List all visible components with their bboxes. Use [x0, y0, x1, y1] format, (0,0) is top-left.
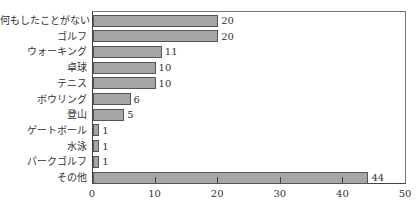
bar	[93, 46, 162, 58]
value-label: 5	[127, 108, 133, 121]
value-label: 6	[134, 93, 140, 106]
x-tick-label: 30	[265, 188, 295, 199]
value-label: 1	[102, 140, 108, 153]
bar	[93, 30, 218, 42]
category-label: ゲートボール	[0, 124, 87, 137]
category-label: パークゴルフ	[0, 155, 87, 168]
value-label: 11	[165, 45, 178, 58]
category-label: 何もしたことがない	[0, 14, 87, 27]
x-tick-label: 0	[77, 188, 107, 199]
category-label: ゴルフ	[0, 30, 87, 43]
bar	[93, 156, 99, 168]
bar	[93, 140, 99, 152]
bar	[93, 109, 124, 121]
value-label: 1	[102, 155, 108, 168]
x-tick-label: 10	[140, 188, 170, 199]
category-label: その他	[0, 171, 87, 184]
x-tick-label: 20	[202, 188, 232, 199]
x-tick	[342, 177, 343, 183]
category-label: ボウリング	[0, 93, 87, 106]
bar	[93, 172, 368, 184]
value-label: 44	[371, 171, 384, 184]
value-label: 10	[159, 77, 172, 90]
x-tick-label: 50	[390, 188, 419, 199]
x-tick	[217, 177, 218, 183]
value-label: 10	[159, 61, 172, 74]
category-label: テニス	[0, 77, 87, 90]
bar	[93, 15, 218, 27]
category-label: 卓球	[0, 61, 87, 74]
category-label: ウォーキング	[0, 45, 87, 58]
x-tick-label: 40	[327, 188, 357, 199]
bar	[93, 93, 131, 105]
value-label: 1	[102, 124, 108, 137]
value-label: 20	[221, 14, 234, 27]
category-label: 水泳	[0, 140, 87, 153]
x-tick	[280, 177, 281, 183]
x-tick	[155, 177, 156, 183]
value-label: 20	[221, 30, 234, 43]
bar	[93, 62, 156, 74]
bar	[93, 124, 99, 136]
category-label: 登山	[0, 108, 87, 121]
bar	[93, 77, 156, 89]
